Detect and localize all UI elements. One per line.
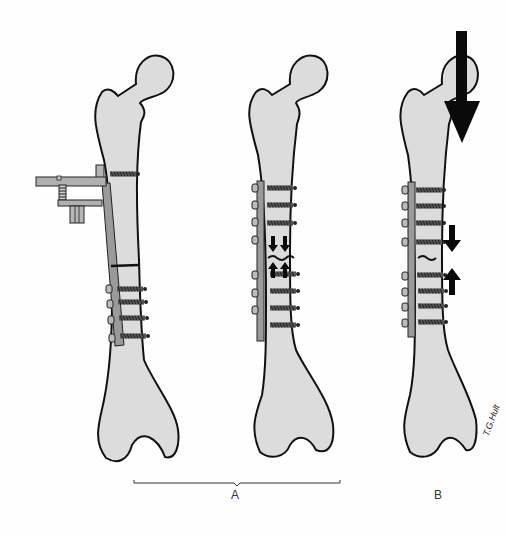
femur-3 bbox=[400, 31, 480, 457]
figure-canvas: A B T.G.Hult bbox=[0, 0, 507, 537]
label-a: A bbox=[231, 488, 239, 502]
femur-illustration bbox=[0, 0, 507, 537]
group-a-bracket bbox=[134, 480, 340, 486]
femur-1 bbox=[36, 56, 178, 462]
femur-2 bbox=[249, 56, 333, 457]
label-b: B bbox=[434, 488, 442, 502]
